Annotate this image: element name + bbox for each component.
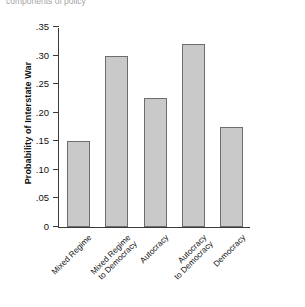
y-axis-tick: .35: [53, 26, 59, 27]
y-axis-tick-label: .20: [36, 106, 49, 119]
y-axis-tick: .30: [53, 55, 59, 56]
y-axis-tick-label: .10: [36, 163, 49, 176]
chart-figure: components of policy Probability of Inte…: [0, 0, 305, 307]
bar: [220, 127, 243, 227]
bar: [67, 141, 90, 227]
y-axis-title: Probability of Interstate War: [23, 43, 33, 203]
y-axis-tick-label: .30: [36, 49, 49, 62]
y-axis-tick: .05: [53, 197, 59, 198]
bar: [105, 56, 128, 227]
y-axis-tick-label: .25: [36, 77, 49, 90]
y-axis-tick: 0: [53, 226, 59, 227]
bar: [144, 98, 167, 227]
y-axis-tick: .20: [53, 112, 59, 113]
y-axis-tick-label: .35: [36, 20, 49, 33]
bar: [182, 44, 205, 227]
y-axis-tick: .10: [53, 169, 59, 170]
y-axis-tick-label: .15: [36, 134, 49, 147]
plot-area: 0.05.10.15.20.25.30.35: [58, 28, 250, 228]
y-axis-tick-label: 0: [44, 220, 49, 233]
y-axis-tick: .15: [53, 140, 59, 141]
clipped-caption-fragment: components of policy: [6, 0, 186, 7]
y-axis-tick-label: .05: [36, 191, 49, 204]
y-axis-tick: .25: [53, 83, 59, 84]
